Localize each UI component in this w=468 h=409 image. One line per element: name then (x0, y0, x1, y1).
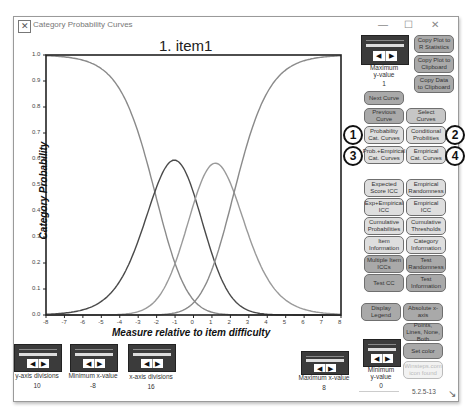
max-y-value: 1 (349, 80, 419, 87)
y-axis-label: Category Probability (38, 126, 49, 256)
arrow-right-icon[interactable]: ▶ (153, 359, 164, 368)
x-tick-label: 1 (209, 319, 212, 325)
resize-grip-icon[interactable]: ↘ (448, 388, 456, 399)
test-randomness-button[interactable]: Test Randomness (406, 255, 446, 273)
arrow-right-icon[interactable]: ▶ (386, 51, 398, 61)
badge-3: 3 (343, 146, 363, 166)
x-tick-label: -6 (80, 319, 85, 325)
badge-4: 4 (445, 146, 465, 166)
x-tick-label: -8 (43, 319, 48, 325)
set-color-button[interactable]: Set color (403, 343, 443, 359)
plot-frame (46, 55, 341, 315)
exp-empirical-icc-button[interactable]: Exp+Empirical ICC (364, 198, 404, 216)
next-curve-button[interactable]: Next Curve (364, 91, 404, 105)
curve-group (46, 56, 341, 315)
prob-cat-curves-button[interactable]: Probability Cat. Curves (364, 126, 404, 144)
prob-empirical-button[interactable]: Prob.+Empirical Cat. Curves (364, 146, 404, 164)
display-legend-button[interactable]: Display Legend (361, 303, 401, 321)
max-x-slider[interactable]: ◀▶ (301, 351, 349, 375)
max-x-label: Maximum x-value (289, 374, 359, 381)
arrow-right-icon[interactable]: ▶ (95, 359, 106, 368)
divider (359, 391, 399, 392)
y-tick-label: 0.1 (32, 285, 40, 291)
arrow-left-icon[interactable]: ◀ (371, 354, 383, 363)
y-tick-label: 0.0 (32, 311, 40, 317)
y-tick-label: 0.2 (32, 259, 40, 265)
min-x-slider[interactable]: ◀▶ (70, 344, 118, 372)
curve-4 (46, 56, 341, 315)
copy-plot-clipboard-button[interactable]: Copy Plot to Clipboard (414, 55, 454, 73)
x-tick-label: 2 (227, 319, 230, 325)
version-label: 5.2.5-13 (412, 388, 436, 395)
select-curves-button[interactable]: Select Curves (406, 108, 446, 124)
arrow-left-icon[interactable]: ◀ (141, 359, 153, 368)
x-tick-label: 6 (301, 319, 304, 325)
empirical-icc-button[interactable]: Empirical ICC (406, 198, 446, 216)
empirical-randomness-button[interactable]: Empirical Randomness (406, 179, 446, 197)
y-tick-label: 0.9 (32, 77, 40, 83)
x-tick-label: 4 (264, 319, 267, 325)
category-information-button[interactable]: Category Information (406, 236, 446, 254)
x-tick-label: -4 (117, 319, 122, 325)
x-tick-label: 0 (191, 319, 194, 325)
absolute-x-axis-button[interactable]: Absolute x-axis (403, 303, 443, 321)
arrow-right-icon[interactable]: ▶ (39, 359, 50, 368)
min-y-slider[interactable]: ◀▶ (363, 339, 401, 367)
x-tick-label: -3 (135, 319, 140, 325)
y-axis-divisions-slider[interactable]: ◀▶ (14, 344, 62, 372)
arrow-right-icon[interactable]: ▶ (326, 364, 337, 372)
test-cc-button[interactable]: Test CC (364, 274, 404, 292)
x-axis-divisions-value: 16 (116, 383, 186, 390)
item-information-button[interactable]: Item Information (364, 236, 404, 254)
arrow-left-icon[interactable]: ◀ (83, 359, 95, 368)
cumulative-probs-button[interactable]: Cumulative Probabilities (364, 217, 404, 235)
arrow-left-icon[interactable]: ◀ (27, 359, 39, 368)
arrow-left-icon[interactable]: ◀ (314, 364, 326, 372)
x-axis-divisions-slider[interactable]: ◀▶ (128, 344, 176, 372)
curve-3 (46, 163, 341, 315)
x-tick-label: -7 (61, 319, 66, 325)
x-tick-label: -1 (172, 319, 177, 325)
x-tick-label: 3 (246, 319, 249, 325)
empirical-cat-curves-button[interactable]: Empirical Cat. Curves (406, 146, 446, 164)
badge-1: 1 (343, 125, 363, 145)
x-tick-label: -2 (154, 319, 159, 325)
conditional-probs-button[interactable]: Conditional Probilities (406, 126, 446, 144)
cumulative-thresholds-button[interactable]: Cumulative Thresholds (406, 217, 446, 235)
max-x-value: 8 (289, 384, 359, 391)
x-axis-label: Measure relative to item difficulty (112, 327, 270, 338)
max-y-slider[interactable]: ◀▶ (361, 35, 409, 65)
app-window: ✕ Category Probability Curves — ☐ ✕ 1. i… (13, 16, 459, 402)
y-tick-label: 0.8 (32, 103, 40, 109)
multiple-item-iccs-button[interactable]: Multiple Item ICCs (364, 255, 404, 273)
test-information-button[interactable]: Test Information (406, 274, 446, 292)
copy-data-clipboard-button[interactable]: Copy Data to Clipboard (414, 75, 454, 93)
arrow-left-icon[interactable]: ◀ (373, 51, 386, 61)
previous-curve-button[interactable]: Previous Curve (364, 108, 404, 124)
points-lines-button[interactable]: Points, Lines, None, Both (403, 323, 443, 341)
x-tick-label: 5 (283, 319, 286, 325)
x-axis-divisions-label: x-axis divisions (116, 373, 186, 380)
arrow-right-icon[interactable]: ▶ (383, 354, 394, 363)
expected-score-icc-button[interactable]: Expected Score ICC (364, 179, 404, 197)
max-y-label: Maximumy-value (349, 64, 419, 78)
curve-1 (46, 56, 341, 315)
x-tick-label: -5 (98, 319, 103, 325)
curve-2 (46, 160, 341, 315)
x-tick-label: 8 (338, 319, 341, 325)
copy-plot-r-button[interactable]: Copy Plot to R Statistics (414, 35, 454, 53)
badge-2: 2 (445, 125, 465, 145)
y-tick-label: 1.0 (32, 51, 40, 57)
x-tick-label: 7 (320, 319, 323, 325)
